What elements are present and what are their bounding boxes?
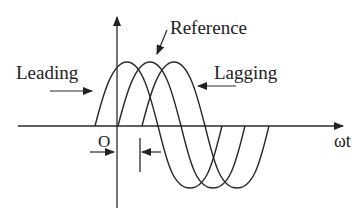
leading-label: Leading <box>16 62 79 83</box>
reference-label: Reference <box>170 17 247 38</box>
lagging-label: Lagging <box>214 62 278 83</box>
reference-arrow <box>157 30 167 54</box>
x-axis-label: ωt <box>334 131 351 151</box>
leading-wave <box>95 62 222 188</box>
origin-label: O <box>98 132 110 151</box>
phase-diagram: Reference Leading Lagging O ωt <box>0 0 357 220</box>
